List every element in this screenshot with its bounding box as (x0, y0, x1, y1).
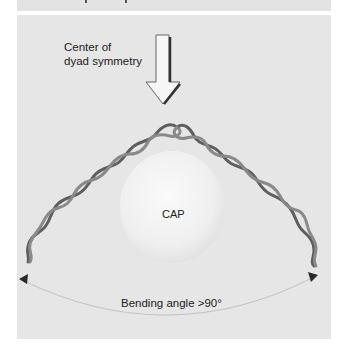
label-line-1: Center of (64, 40, 142, 54)
down-arrow-icon (146, 35, 180, 104)
arc-arrowhead-left-icon (19, 274, 28, 284)
dyad-symmetry-label: Center of dyad symmetry (64, 40, 142, 68)
cap-label: CAP (162, 207, 185, 221)
label-line-2: dyad symmetry (64, 54, 142, 68)
arc-arrowhead-right-icon (308, 272, 318, 282)
bending-angle-label: Bending angle >90° (121, 296, 222, 310)
